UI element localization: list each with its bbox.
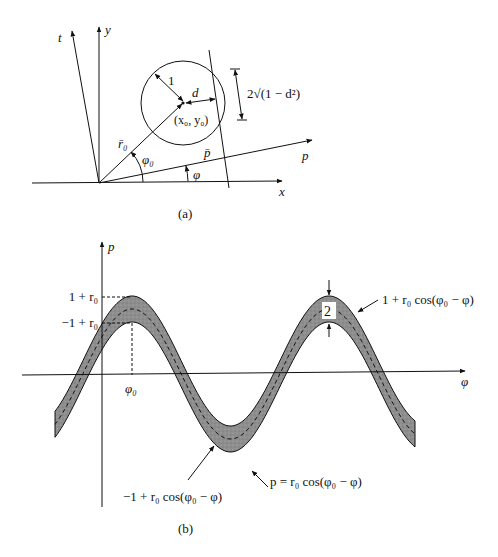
p-axis-b-label: p (107, 239, 115, 254)
band-width-label: 2 (324, 304, 331, 319)
t-axis (72, 31, 99, 183)
phi-arc (186, 166, 188, 181)
phi-angle-label: φ (193, 167, 200, 182)
center-curve-label: p = r₀ cos(φ₀ − φ) (270, 474, 362, 489)
panel-a-caption: (a) (178, 206, 192, 221)
x-axis-label: x (278, 184, 285, 199)
r0-vector-label: r̄₀ (118, 136, 128, 151)
t-axis-label: t (58, 30, 62, 45)
faint-caption-strip (0, 540, 498, 557)
upper-tick-label: 1 + r₀ (69, 289, 98, 304)
phi0-angle-label: φ₀ (142, 152, 154, 167)
distance-label: d (192, 85, 199, 100)
p-axis-label: p (301, 148, 309, 163)
lower-tick-label: −1 + r₀ (61, 315, 98, 330)
chord-dimension (235, 70, 242, 119)
x-axis (32, 181, 282, 183)
distance-arrow (186, 99, 215, 103)
phi0-tick-label: φ₀ (125, 381, 137, 396)
chord-label: 2√(1 − d²) (247, 86, 300, 101)
upper-curve-label: 1 + r₀ cos(φ₀ − φ) (382, 292, 474, 307)
projection-line (209, 50, 229, 188)
panel-a: t y x p 1 d (x₀, y₀) 2√(1 − d²) r̄₀ p̄ φ… (32, 22, 312, 221)
figure-canvas: t y x p 1 d (x₀, y₀) 2√(1 − d²) r̄₀ p̄ φ… (0, 0, 498, 557)
radius-label: 1 (168, 73, 175, 88)
lower-leader (188, 446, 214, 480)
center-label: (x₀, y₀) (174, 113, 208, 127)
panel-b-caption: (b) (178, 521, 193, 536)
y-axis-label: y (103, 22, 111, 37)
r0-vector (99, 104, 182, 183)
p-vector-label: p̄ (203, 145, 211, 160)
upper-leader (358, 300, 378, 312)
phi-axis-label: φ (461, 374, 468, 389)
center-leader (252, 471, 268, 487)
center-point (181, 101, 184, 104)
lower-curve-label: −1 + r₀ cos(φ₀ − φ) (123, 489, 222, 504)
panel-b: 2 p φ 1 + r₀ −1 + r₀ φ₀ 1 + r₀ cos(φ₀ − … (22, 239, 474, 536)
